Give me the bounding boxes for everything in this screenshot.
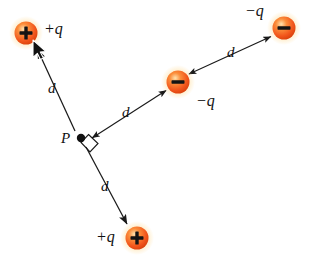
charge-top-right — [267, 11, 301, 45]
charge-bottom — [120, 221, 154, 255]
diagram-vector-layer — [0, 0, 312, 257]
charge-label-top-left: +q — [44, 21, 63, 37]
distance-label-center-right: d — [122, 105, 130, 120]
point-p-label: P — [61, 131, 70, 146]
charge-label-middle: −q — [196, 93, 215, 109]
minus-sign-icon — [172, 80, 185, 83]
minus-sign-icon — [278, 26, 291, 29]
charge-label-bottom: +q — [96, 229, 115, 245]
distance-label-lower: d — [101, 179, 109, 194]
figure-canvas: +q −q −q +q P d d d d — [0, 0, 312, 257]
distance-label-upper-right: d — [227, 45, 235, 60]
arrow-p-to-topleft — [38, 50, 76, 132]
distance-label-upper-left: d — [48, 81, 56, 96]
charge-label-top-right: −q — [245, 3, 264, 19]
point-p-dot — [77, 134, 85, 142]
charge-middle — [161, 65, 195, 99]
